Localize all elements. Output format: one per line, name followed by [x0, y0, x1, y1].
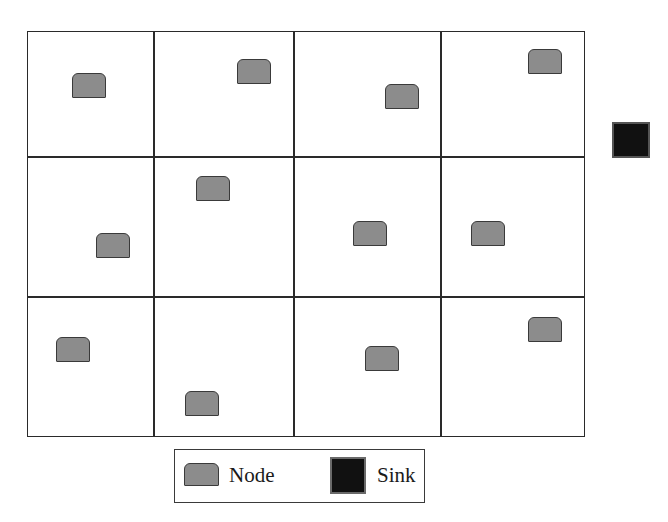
sensor-node: [72, 73, 106, 98]
sensor-node: [385, 84, 419, 109]
sensor-node: [471, 221, 505, 246]
legend-label-node: Node: [229, 462, 275, 488]
grid-row-divider: [28, 156, 584, 158]
grid-row-divider: [28, 296, 584, 298]
legend: Node Sink: [174, 449, 425, 503]
sensor-node: [353, 221, 387, 246]
sensor-node: [365, 346, 399, 371]
legend-label-sink: Sink: [377, 462, 416, 488]
sensor-node: [196, 176, 230, 201]
grid-column-divider: [153, 32, 155, 436]
node-icon: [184, 463, 219, 486]
sink-node: [612, 122, 650, 158]
sensor-node: [185, 391, 219, 416]
sensor-node: [237, 59, 271, 84]
sensor-node: [528, 317, 562, 342]
sensor-node: [528, 49, 562, 74]
sensor-node: [96, 233, 130, 258]
sensor-node: [56, 337, 90, 362]
grid-column-divider: [293, 32, 295, 436]
sink-icon: [330, 457, 366, 494]
grid-column-divider: [440, 32, 442, 436]
